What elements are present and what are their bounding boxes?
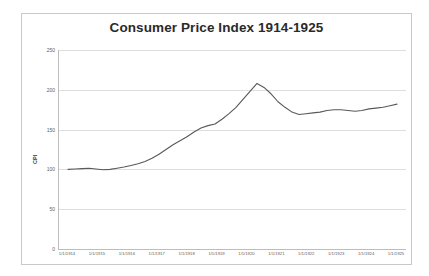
- x-axis-tick-label: 1/1/1924: [358, 251, 374, 256]
- cpi-line-series: [59, 50, 406, 249]
- x-axis-tick-label: 1/1/1917: [149, 251, 165, 256]
- x-axis-tick-label: 1/1/1915: [89, 251, 105, 256]
- chart-title: Consumer Price Index 1914-1925: [22, 20, 411, 35]
- y-axis-tick-label: 0: [52, 246, 55, 252]
- y-axis-tick-label: 200: [47, 87, 55, 93]
- y-axis-title: CPI: [32, 155, 38, 164]
- y-axis-tick-label: 250: [47, 47, 55, 53]
- chart-container: Consumer Price Index 1914-1925 CPI 05010…: [21, 13, 412, 265]
- x-axis-tick-label: 1/1/1921: [268, 251, 284, 256]
- x-axis-tick-label: 1/1/1918: [178, 251, 194, 256]
- x-axis-tick-label: 1/1/1922: [298, 251, 314, 256]
- y-axis-tick-label: 50: [49, 206, 55, 212]
- x-axis-tick-label: 1/1/1920: [238, 251, 254, 256]
- x-axis-tick-label: 1/1/1925: [388, 251, 404, 256]
- y-axis-tick-label: 150: [47, 127, 55, 133]
- x-axis-tick-labels: 1/1/19141/1/19151/1/19161/1/19171/1/1918…: [58, 251, 405, 263]
- y-axis-tick-label: 100: [47, 166, 55, 172]
- x-axis-tick-label: 1/1/1923: [328, 251, 344, 256]
- plot-area: 050100150200250: [58, 50, 406, 250]
- x-axis-tick-label: 1/1/1916: [119, 251, 135, 256]
- x-axis-tick-label: 1/1/1914: [59, 251, 75, 256]
- x-axis-tick-label: 1/1/1919: [208, 251, 224, 256]
- series-polyline: [68, 83, 397, 169]
